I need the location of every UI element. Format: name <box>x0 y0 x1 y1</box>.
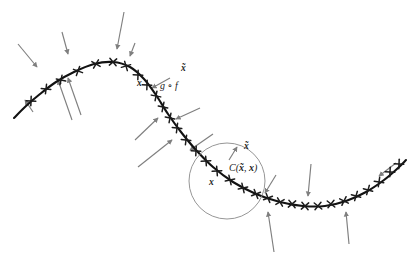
reconstruction-vector-arrow <box>308 164 311 196</box>
vector-field-group <box>18 12 396 252</box>
reconstruction-vector-arrow <box>68 78 81 115</box>
reconstruction-vector-arrow <box>268 212 274 252</box>
label-corruption-process: C(x̃, x) <box>229 163 257 173</box>
manifold-vector-field-diagram <box>0 0 413 270</box>
reconstruction-vector-arrow <box>18 44 37 67</box>
corruption-close-paren: ) <box>254 162 257 173</box>
reconstruction-vector-arrow <box>138 140 172 167</box>
reconstruction-vector-arrow <box>176 108 200 119</box>
reconstruction-vector-arrow <box>62 32 68 54</box>
reconstruction-vector-arrow <box>379 163 396 176</box>
label-xtilde-upper: x̃ <box>181 64 186 74</box>
reconstruction-vector-arrow <box>265 175 276 193</box>
label-xtilde-lower: x̃ <box>244 142 249 152</box>
label-reconstruction-map: g ∘ f <box>160 81 178 91</box>
data-point-marker <box>394 159 404 169</box>
label-x-upper: x <box>137 79 142 89</box>
corruption-comma: , <box>244 162 247 173</box>
reconstruction-vector-arrow <box>117 12 124 49</box>
reconstruction-vector-arrow <box>135 118 158 140</box>
corruption-open-paren: C( <box>229 162 239 173</box>
reconstruction-vector-arrow <box>130 43 135 56</box>
reconstruction-vector-arrow <box>229 147 237 160</box>
reconstruction-vector-arrow <box>58 80 72 120</box>
reconstruction-vector-arrow <box>346 212 349 244</box>
data-point-marker <box>385 167 395 177</box>
data-point-marker <box>238 183 247 192</box>
data-point-markers <box>26 58 404 209</box>
label-x-lower: x <box>209 178 214 188</box>
data-point-marker <box>252 190 261 199</box>
figure-canvas: x x̃ g ∘ f x x̃ C(x̃, x) <box>0 0 413 270</box>
